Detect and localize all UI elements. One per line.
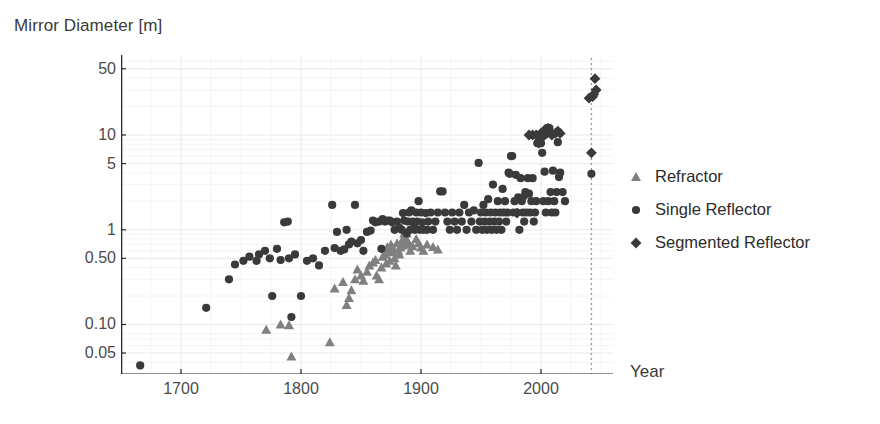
data-point-circle <box>529 174 537 182</box>
data-point-circle <box>556 169 564 177</box>
data-point-circle <box>538 149 546 157</box>
data-point-circle <box>532 197 540 205</box>
scatter-chart-figure: Mirror Diameter [m] Year 0.050.100.50151… <box>0 0 880 424</box>
data-point-circle <box>245 253 253 261</box>
data-point-circle <box>549 167 557 175</box>
data-point-circle <box>520 218 528 226</box>
data-point-circle <box>225 275 233 283</box>
data-point-circle <box>273 245 281 253</box>
data-point-circle <box>333 228 341 236</box>
data-point-circle <box>231 260 239 268</box>
y-axis-tick-labels: 0.050.100.50151050 <box>0 0 116 424</box>
data-point-circle <box>502 218 510 226</box>
x-tick-label: 1700 <box>163 380 199 398</box>
data-point-circle <box>495 218 503 226</box>
data-point-circle <box>443 218 451 226</box>
y-tick-label: 0.10 <box>85 315 116 333</box>
legend-label: Segmented Reflector <box>655 233 810 252</box>
y-tick-label: 1 <box>107 221 116 239</box>
data-point-circle <box>463 226 471 234</box>
data-point-circle <box>550 197 558 205</box>
triangle-marker-icon <box>626 167 646 187</box>
legend-item-segmented-reflector[interactable]: Segmented Reflector <box>626 226 876 259</box>
data-point-circle <box>467 218 475 226</box>
data-point-circle <box>439 187 447 195</box>
data-point-circle <box>415 197 423 205</box>
data-point-circle <box>559 188 567 196</box>
data-point-circle <box>202 304 210 312</box>
data-point-circle <box>268 292 276 300</box>
legend-label: Refractor <box>655 167 723 186</box>
data-point-circle <box>501 197 509 205</box>
data-point-circle <box>359 247 367 255</box>
data-point-circle <box>632 205 640 213</box>
data-point-triangle <box>261 325 271 334</box>
x-tick-label: 1900 <box>403 380 439 398</box>
data-point-circle <box>451 218 459 226</box>
data-point-circle <box>429 226 437 234</box>
circle-marker-icon <box>626 200 646 220</box>
y-tick-label: 50 <box>98 60 116 78</box>
y-tick-label: 0.50 <box>85 249 116 267</box>
data-point-circle <box>284 218 292 226</box>
y-tick-label: 10 <box>98 126 116 144</box>
data-point-triangle <box>338 277 348 286</box>
data-point-circle <box>499 185 507 193</box>
x-axis-title: Year <box>630 362 664 382</box>
data-point-circle <box>530 218 538 226</box>
data-point-circle <box>315 261 323 269</box>
data-point-triangle <box>346 285 356 294</box>
data-point-circle <box>291 250 299 258</box>
data-point-circle <box>309 254 317 262</box>
data-point-circle <box>441 208 449 216</box>
data-point-circle <box>377 245 385 253</box>
data-point-circle <box>427 208 435 216</box>
x-tick-label: 2000 <box>523 380 559 398</box>
data-point-circle <box>261 247 269 255</box>
data-point-circle <box>515 226 523 234</box>
data-point-circle <box>343 226 351 234</box>
data-point-circle <box>587 170 595 178</box>
data-point-triangle <box>344 293 354 302</box>
data-point-triangle <box>325 337 335 346</box>
diamond-marker-icon <box>626 233 646 253</box>
data-point-circle <box>458 218 466 226</box>
x-tick-label: 1800 <box>283 380 319 398</box>
data-point-circle <box>484 195 492 203</box>
data-point-circle <box>297 292 305 300</box>
data-point-circle <box>508 152 516 160</box>
data-point-circle <box>531 208 539 216</box>
data-point-triangle <box>631 172 641 181</box>
data-point-circle <box>551 208 559 216</box>
data-point-circle <box>554 138 562 146</box>
legend-item-single-reflector[interactable]: Single Reflector <box>626 193 876 226</box>
y-tick-label: 5 <box>107 155 116 173</box>
plot-area <box>121 55 613 374</box>
legend-item-refractor[interactable]: Refractor <box>626 160 876 193</box>
plot-canvas <box>121 55 613 374</box>
chart-legend: RefractorSingle ReflectorSegmented Refle… <box>626 160 876 259</box>
data-point-circle <box>517 174 525 182</box>
data-point-circle <box>431 218 439 226</box>
data-point-circle <box>357 236 365 244</box>
data-point-circle <box>328 201 336 209</box>
data-point-circle <box>448 208 456 216</box>
data-point-circle <box>351 201 359 209</box>
y-tick-label: 0.05 <box>85 344 116 362</box>
data-point-circle <box>460 201 468 209</box>
data-point-circle <box>541 168 549 176</box>
data-point-circle <box>446 226 454 234</box>
data-point-circle <box>494 197 502 205</box>
data-point-circle <box>424 218 432 226</box>
data-point-circle <box>455 208 463 216</box>
data-point-circle <box>434 208 442 216</box>
legend-label: Single Reflector <box>655 200 771 219</box>
data-point-diamond <box>631 237 642 248</box>
data-point-circle <box>266 254 274 262</box>
gridlines <box>121 55 613 374</box>
data-point-circle <box>470 206 478 214</box>
data-point-circle <box>277 256 285 264</box>
data-point-circle <box>489 181 497 189</box>
data-point-circle <box>497 226 505 234</box>
data-point-circle <box>453 226 461 234</box>
